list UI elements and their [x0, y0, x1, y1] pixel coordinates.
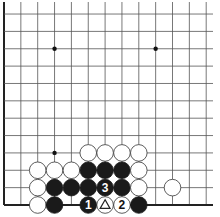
- black-stone: [131, 197, 148, 214]
- white-stone: [131, 162, 148, 179]
- white-stone: [29, 162, 46, 179]
- go-board: 312: [0, 0, 220, 217]
- white-stone: [97, 197, 114, 214]
- white-stone: [80, 145, 97, 162]
- black-stone: 1: [80, 197, 97, 214]
- black-stone: [46, 179, 63, 196]
- white-stone: [131, 145, 148, 162]
- star-point-icon: [153, 47, 157, 51]
- move-number-label: 1: [85, 198, 92, 212]
- black-stone: 3: [97, 179, 114, 196]
- black-stone: [97, 162, 114, 179]
- black-stone: [80, 162, 97, 179]
- white-stone: [114, 145, 131, 162]
- black-stone: [46, 197, 63, 214]
- white-stone: [29, 197, 46, 214]
- white-stone: [63, 162, 80, 179]
- white-stone: [131, 179, 148, 196]
- star-point-icon: [52, 47, 56, 51]
- white-stone: 2: [114, 197, 131, 214]
- white-stone: [46, 162, 63, 179]
- star-point-icon: [52, 151, 56, 155]
- black-stone: [114, 179, 131, 196]
- move-number-label: 3: [102, 181, 109, 195]
- white-stone: [29, 179, 46, 196]
- black-stone: [63, 179, 80, 196]
- black-stone: [80, 179, 97, 196]
- white-stone: [97, 145, 114, 162]
- black-stone: [114, 162, 131, 179]
- white-stone: [164, 179, 181, 196]
- stones: 312: [29, 145, 180, 214]
- move-number-label: 2: [119, 198, 126, 212]
